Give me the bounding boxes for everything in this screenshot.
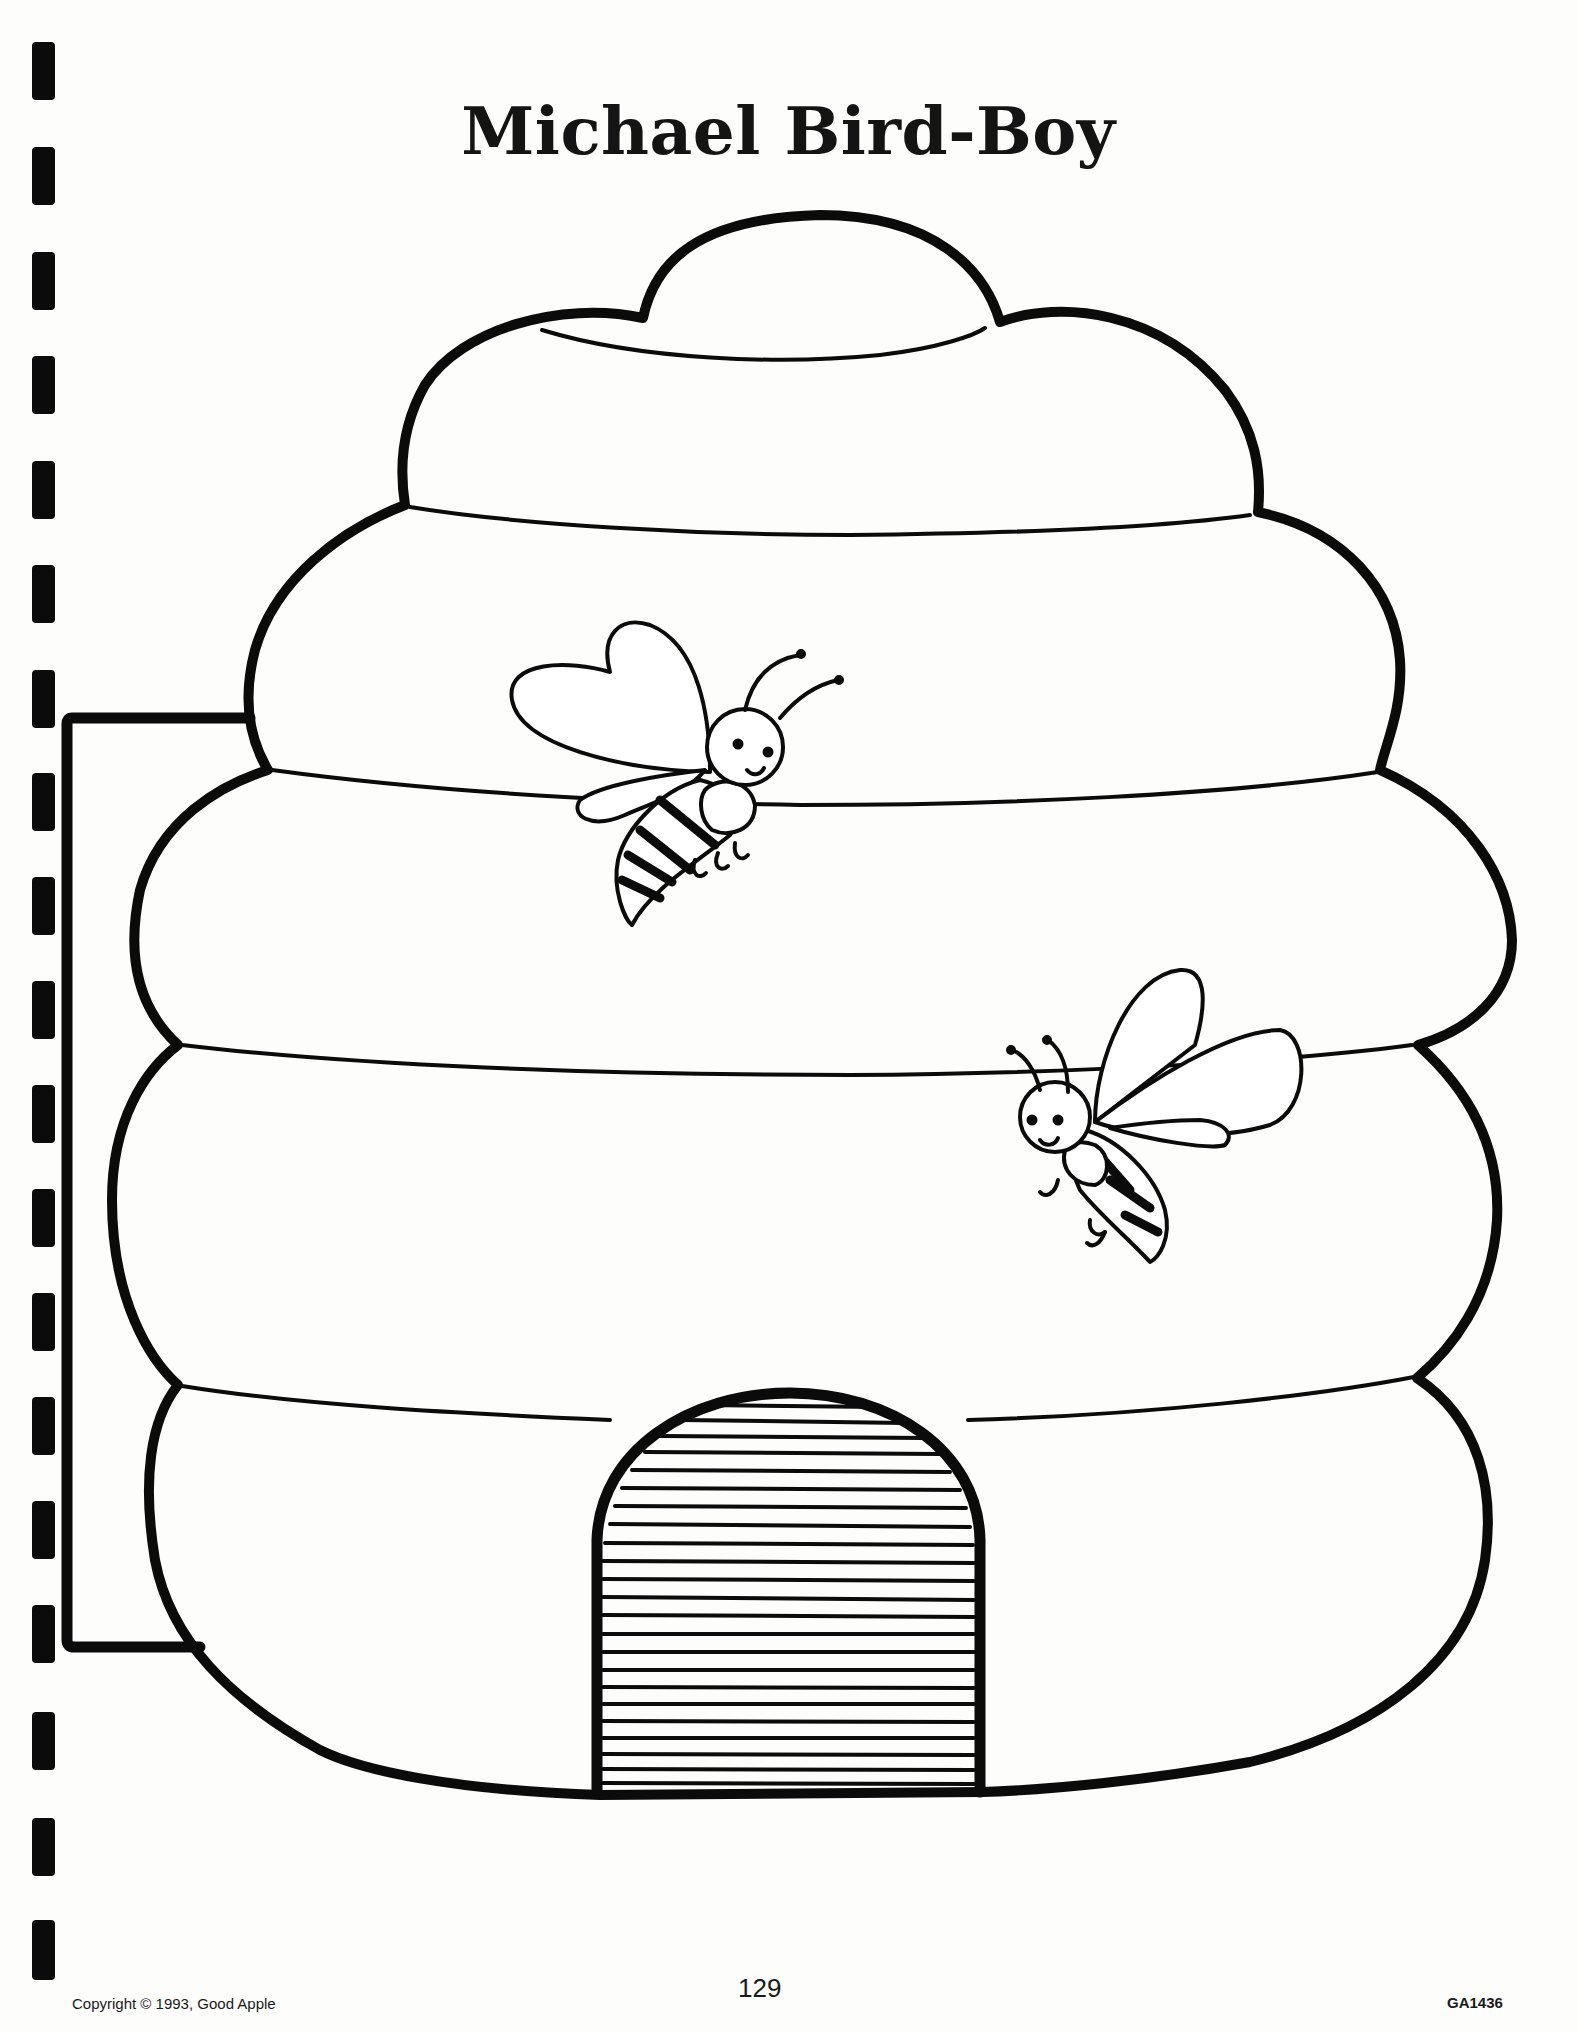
- catalog-code: GA1436: [1447, 1994, 1503, 2011]
- tier-line: [182, 1386, 610, 1420]
- bee-icon: [511, 622, 842, 925]
- beehive-illustration: [0, 0, 1577, 2032]
- tier-line: [272, 770, 1378, 805]
- page-number: 129: [738, 1973, 781, 2004]
- hive-outline: [112, 215, 1512, 1795]
- copyright-notice: Copyright © 1993, Good Apple: [72, 1995, 276, 2012]
- bee-icon: [1008, 970, 1301, 1262]
- tier-line: [542, 328, 985, 360]
- tier-line: [968, 1377, 1414, 1420]
- hive-door: [597, 1393, 980, 1792]
- tier-line: [410, 507, 1250, 535]
